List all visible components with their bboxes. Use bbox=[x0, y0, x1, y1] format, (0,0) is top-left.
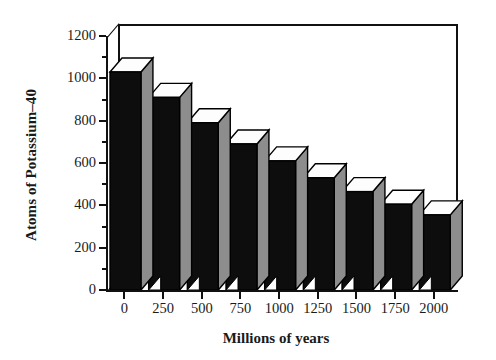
bar-side-face bbox=[141, 58, 153, 290]
y-tick-major bbox=[99, 35, 106, 37]
x-tick bbox=[394, 292, 396, 299]
y-tick-label: 600 bbox=[52, 155, 96, 169]
y-tick-major bbox=[99, 77, 106, 79]
x-tick bbox=[355, 292, 357, 299]
x-tick bbox=[278, 292, 280, 299]
y-tick-major bbox=[99, 247, 106, 249]
y-axis-line bbox=[106, 36, 108, 292]
y-tick-minor bbox=[102, 226, 106, 228]
bar-chart: Atoms of Potassium–40 Millions of years … bbox=[0, 0, 496, 360]
y-tick-label: 800 bbox=[52, 113, 96, 127]
x-tick bbox=[162, 292, 164, 299]
y-tick-label: 1000 bbox=[52, 70, 96, 84]
y-tick-major bbox=[99, 204, 106, 206]
y-tick-minor bbox=[102, 141, 106, 143]
y-tick-major bbox=[99, 120, 106, 122]
y-tick-major bbox=[99, 289, 106, 291]
x-tick-label: 2000 bbox=[407, 300, 461, 316]
x-tick bbox=[317, 292, 319, 299]
y-tick-label: 400 bbox=[52, 197, 96, 211]
y-tick-minor bbox=[102, 268, 106, 270]
y-tick-major bbox=[99, 162, 106, 164]
y-axis-tick-labels: 020040060080010001200 bbox=[48, 0, 96, 360]
x-axis-line bbox=[106, 290, 458, 292]
x-tick bbox=[239, 292, 241, 299]
y-tick-label: 200 bbox=[52, 240, 96, 254]
x-tick bbox=[123, 292, 125, 299]
y-tick-minor bbox=[102, 99, 106, 101]
y-tick-minor bbox=[102, 183, 106, 185]
y-tick-minor bbox=[102, 56, 106, 58]
y-tick-label: 0 bbox=[52, 282, 96, 296]
bar-front-face bbox=[110, 72, 141, 290]
y-tick-label: 1200 bbox=[52, 28, 96, 42]
x-tick bbox=[201, 292, 203, 299]
x-tick bbox=[433, 292, 435, 299]
plot-area: 020040060080010001200 025050075010001250… bbox=[0, 0, 496, 360]
